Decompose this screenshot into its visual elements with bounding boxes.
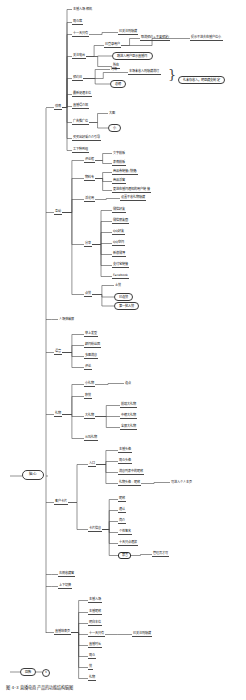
node-label: 预约日 <box>73 75 82 79</box>
node-主播头像[interactable]: 主播头像 <box>118 448 132 453</box>
node-QQ空间[interactable]: QQ空间 <box>112 241 125 246</box>
node-礼未存收入-明显藏支制定[interactable]: 礼未存收入，明显藏支制定 <box>178 76 225 84</box>
node-关注电台[interactable]: 关注电台 <box>72 54 86 59</box>
node-赞[interactable]: 赞 <box>88 665 93 670</box>
node-客户卡片[interactable]: 客户卡片 <box>54 500 68 505</box>
node-微信好友[interactable]: 微信好友 <box>112 208 126 213</box>
node-label: 明白本位 <box>89 620 101 624</box>
node-观众[interactable]: 观众 <box>88 654 96 659</box>
node-提示不进去在播户位小[interactable]: 提示不进去在播户位小 <box>190 36 223 41</box>
node-总榜[interactable]: 总榜 <box>110 80 126 88</box>
node-广告推广位[interactable]: 广告推广位 <box>72 120 89 125</box>
node-label: 评论框 <box>85 157 94 161</box>
legend-node-label: 回款 <box>25 670 31 674</box>
node-中榜大礼物[interactable]: 中榜大礼物 <box>120 414 137 419</box>
node-文字模板[interactable]: 文字模板 <box>112 152 126 155</box>
node-Facebook[interactable]: Facebook <box>112 274 129 279</box>
node-第一批人赞[interactable]: 第一批人赞 <box>114 302 139 310</box>
node-label: 时场 <box>111 67 117 71</box>
node-买买出好采介介引导[interactable]: 买买出好采介介引导 <box>72 136 101 141</box>
node-分享[interactable]: 分享 <box>84 242 92 247</box>
root-node[interactable]: 脑心 <box>22 470 44 480</box>
node-详情[interactable]: 详情 <box>54 105 62 110</box>
node-最新促通本位[interactable]: 最新促通本位 <box>72 92 92 97</box>
node-前端大礼物[interactable]: 前端大礼物 <box>120 403 137 408</box>
node-简介[interactable]: 简介 <box>118 519 126 524</box>
node-人场弹幕屏[interactable]: 人场弹幕屏 <box>58 318 75 321</box>
node-预约日[interactable]: 预约日 <box>72 76 83 81</box>
node-明白本位[interactable]: 明白本位 <box>88 621 102 626</box>
node-物料专[interactable]: 物料专 <box>84 176 95 181</box>
node-观众头像[interactable]: 观众头像 <box>118 459 132 464</box>
node-大礼物[interactable]: 大礼物 <box>84 414 95 419</box>
node-礼物[interactable]: 礼物 <box>54 412 62 417</box>
node-微信朋友圈[interactable]: 微信朋友圈 <box>112 219 129 224</box>
node-主播入场[interactable]: 主播入场 <box>88 598 102 603</box>
node-入口[interactable]: 入口 <box>88 462 96 467</box>
node-label: 客户卡片 <box>55 499 67 503</box>
node-直播得介绍[interactable]: 直播得介绍 <box>72 104 89 109</box>
node-label: 观众头像 <box>119 458 131 462</box>
node-本场未收入则隐藏消灯[interactable]: 本场未收入则隐藏消灯 <box>128 70 161 75</box>
node-互动[interactable]: 互动 <box>54 210 62 215</box>
node-label: 最新促通本位 <box>73 91 91 95</box>
node-工下种到组[interactable]: 工下种到组 <box>72 148 89 153</box>
node-已关注则隐藏[interactable]: 已关注则隐藏 <box>132 632 152 637</box>
node-禁言[interactable]: 禁言 <box>118 552 131 559</box>
node-表情模板[interactable]: 表情模板 <box>112 161 126 166</box>
node-已关注则隐藏[interactable]: 已关注则隐藏 <box>118 30 138 35</box>
node-颜间粉丝团[interactable]: 颜间粉丝团 <box>84 343 101 348</box>
node-语音[interactable]: 语音 <box>54 350 62 355</box>
node-卡片信息[interactable]: 卡片信息 <box>88 527 102 532</box>
node-右侧收藏窗[interactable]: 右侧收藏窗 <box>58 572 75 577</box>
node-观众席[interactable]: 观众席 <box>72 20 83 25</box>
node-主播昵称[interactable]: 主播昵称 <box>88 610 102 615</box>
node-label: 大礼物 <box>85 413 94 417</box>
node-个性签名[interactable]: 个性签名 <box>118 530 132 535</box>
node-已连赞[interactable]: 已连赞 <box>114 293 133 301</box>
legend-node[interactable]: 回款 <box>20 668 36 676</box>
node-全屏大礼物[interactable]: 全屏大礼物 <box>120 425 137 430</box>
node-直播时长[interactable]: 直播时长 <box>88 643 102 648</box>
node-大图[interactable]: 大图 <box>108 112 116 115</box>
node-礼物[interactable]: 礼物 <box>88 676 96 681</box>
node-设置不收礼物隐藏[interactable]: 设置不收礼物隐藏 <box>120 196 146 201</box>
node-点赞[interactable]: 点赞 <box>84 292 92 297</box>
node-上下切换[interactable]: 上下切换 <box>58 584 72 589</box>
node-QQ好友[interactable]: QQ好友 <box>112 230 125 235</box>
node-支付宝链接[interactable]: 支付宝链接 <box>112 263 129 268</box>
node-商品浮窗[interactable]: 商品浮窗 <box>112 179 126 184</box>
node-label: 个性签名 <box>119 529 131 533</box>
node-消息列表中的昵称[interactable]: 消息列表中的昵称 <box>118 470 144 475</box>
node-小礼物[interactable]: 小礼物 <box>84 382 95 387</box>
node-更进在播间通知的用户链接[interactable]: 更进在播间通知的用户链接 <box>112 188 151 193</box>
node-label: 从叫礼物 <box>85 435 97 439</box>
node-活化用[interactable]: 活化用 <box>84 197 95 202</box>
collapse-count-badge[interactable]: 6 <box>42 669 50 677</box>
node-可进入个人主页[interactable]: 可进入个人主页 <box>170 481 193 484</box>
node-小[interactable]: 小 <box>108 124 121 132</box>
node-土赞[interactable]: 土赞 <box>114 284 122 287</box>
node-十一天只有[interactable]: 十一天只有 <box>72 32 89 37</box>
node-连点[interactable]: 连点 <box>124 382 132 385</box>
node-评论[interactable]: 评论 <box>84 365 92 370</box>
node-积赞[interactable]: 积赞 <box>84 394 92 399</box>
node-评论框[interactable]: 评论框 <box>84 158 95 163</box>
node-多图消息[interactable]: 多图消息 <box>84 354 98 359</box>
node-取消预约-不要预定-[interactable]: 取消预约+不要预定/ <box>140 36 170 41</box>
node-跳进入用户显示直播间[interactable]: 跳进入用户显示直播间 <box>112 52 153 60</box>
node-新浪微博[interactable]: 新浪微博 <box>112 252 126 257</box>
node-直播结束页[interactable]: 直播结束页 <box>54 630 71 635</box>
node-主播入场-相机[interactable]: 主播入场·相机 <box>72 8 93 11</box>
node-已登录用户[interactable]: 已登录用户 <box>104 43 121 48</box>
node-举上发型[interactable]: 举上发型 <box>84 332 98 337</box>
node-时场[interactable]: 时场 <box>110 68 118 71</box>
node-十一天只有[interactable]: 十一天只有 <box>88 632 105 637</box>
node-通认[interactable]: 通认 <box>118 508 126 513</box>
node-商品券链接-快捷-[interactable]: 商品券链接(快捷) <box>112 170 138 175</box>
node-礼物头像-昵称[interactable]: 礼物头像 · 昵称 <box>118 481 141 486</box>
node-昵称[interactable]: 昵称 <box>118 497 126 502</box>
node-从叫礼物[interactable]: 从叫礼物 <box>84 436 98 441</box>
node-管理员才可[interactable]: 管理员才可 <box>152 552 169 557</box>
node-十天只点通报[interactable]: 十天只点通报 <box>118 541 138 546</box>
